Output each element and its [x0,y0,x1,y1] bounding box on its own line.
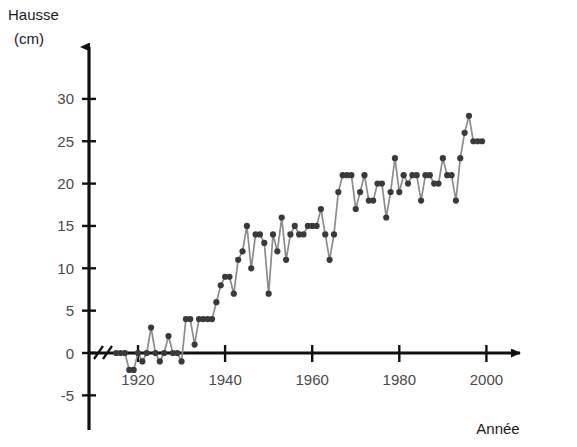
data-point [192,341,198,347]
x-tick-label: 1920 [121,371,154,388]
data-point [327,257,333,263]
data-point [335,189,341,195]
data-point [152,350,158,356]
data-point [457,155,463,161]
data-point [161,350,167,356]
data-point [440,155,446,161]
chart-container: -5051015202530 19201940196019802000 Haus… [0,0,577,447]
data-point [435,181,441,187]
data-point [165,333,171,339]
line-chart: -5051015202530 19201940196019802000 Haus… [0,0,577,447]
data-point [226,274,232,280]
data-point [157,358,163,364]
data-point [174,350,180,356]
data-point [370,197,376,203]
data-point [361,172,367,178]
data-point [239,248,245,254]
x-tick-label: 1940 [208,371,241,388]
data-point [466,113,472,119]
data-point [213,299,219,305]
data-point [178,358,184,364]
data-point [248,265,254,271]
axis-titles: Hausse (cm) Année [8,6,520,437]
data-point [270,231,276,237]
y-tick-label: 15 [57,217,74,234]
y-tick-label: 10 [57,260,74,277]
x-tick-label: 2000 [470,371,503,388]
data-point [266,291,272,297]
data-point [396,189,402,195]
data-point [144,350,150,356]
data-point [462,130,468,136]
data-series [113,113,485,373]
data-point [148,324,154,330]
data-point [135,350,141,356]
data-point [322,231,328,237]
y-tick-label: -5 [61,387,74,404]
data-point [287,231,293,237]
y-tick-label: 5 [66,302,74,319]
data-point [244,223,250,229]
data-point [131,367,137,373]
data-point [257,231,263,237]
data-point [313,223,319,229]
data-point [279,214,285,220]
data-point [383,214,389,220]
y-tick-label: 25 [57,133,74,150]
data-point [479,138,485,144]
series-line-hausse [116,116,482,370]
x-axis-title: Année [476,420,519,437]
data-point [318,206,324,212]
data-point [235,257,241,263]
data-point [300,231,306,237]
y-tick-label: 20 [57,175,74,192]
y-axis-title-line1: Hausse [8,6,59,23]
data-point [231,291,237,297]
data-point [261,240,267,246]
data-point [348,172,354,178]
data-point [414,172,420,178]
data-point [392,155,398,161]
data-point [292,223,298,229]
data-point [139,358,145,364]
series-markers [113,113,485,373]
data-point [427,172,433,178]
data-point [405,181,411,187]
data-point [331,231,337,237]
data-point [387,189,393,195]
data-point [379,181,385,187]
data-point [453,197,459,203]
data-point [353,206,359,212]
data-point [418,197,424,203]
x-tick-label: 1980 [383,371,416,388]
y-tick-label: 0 [66,345,74,362]
data-point [187,316,193,322]
data-point [274,248,280,254]
data-point [357,189,363,195]
data-point [209,316,215,322]
data-point [448,172,454,178]
data-point [283,257,289,263]
x-tick-label: 1960 [296,371,329,388]
data-point [401,172,407,178]
data-point [122,350,128,356]
data-point [218,282,224,288]
y-axis-title-line2: (cm) [14,30,44,47]
y-tick-label: 30 [57,90,74,107]
